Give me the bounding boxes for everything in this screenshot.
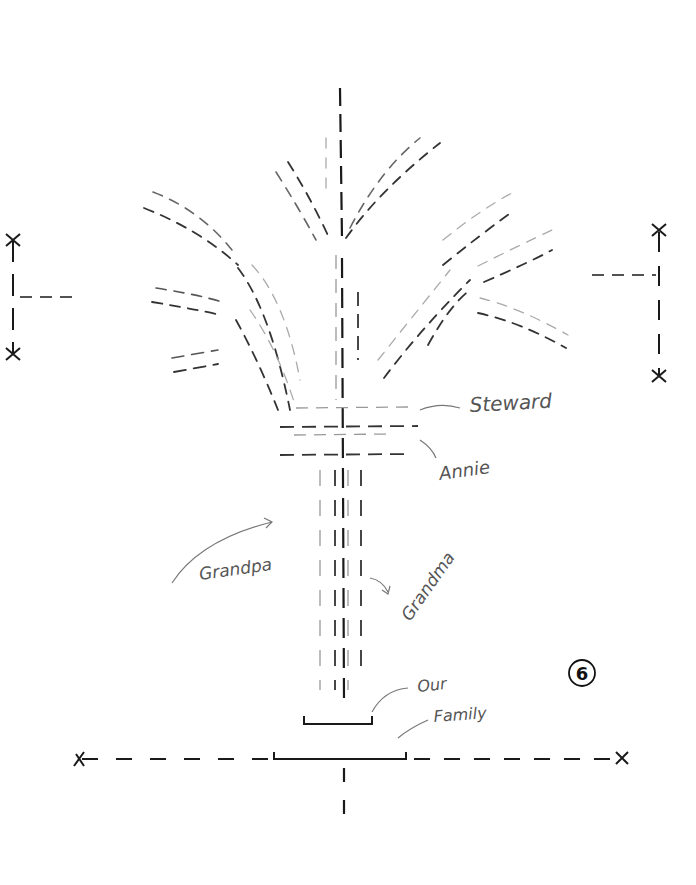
label-grandma: Grandma (397, 548, 459, 624)
family-tree-diagram: Steward Annie Grandpa Grandma Our Family… (0, 0, 696, 885)
svg-text:6: 6 (576, 663, 589, 684)
label-grandpa: Grandpa (198, 554, 273, 584)
central-axis (340, 88, 344, 820)
bottom-axis (74, 752, 628, 766)
label-our: Our (416, 674, 449, 696)
right-branches (378, 193, 568, 378)
label-annie: Annie (437, 456, 492, 484)
trunk (320, 470, 361, 690)
our-bracket (304, 716, 372, 724)
page-number-badge: 6 (569, 660, 595, 686)
left-branches (144, 192, 300, 410)
right-side-axis (592, 224, 666, 382)
left-inner-branches (336, 255, 358, 400)
top-branches (276, 138, 440, 240)
label-family: Family (433, 703, 488, 726)
generation-lines (280, 407, 418, 455)
label-steward: Steward (469, 389, 553, 417)
left-side-axis (6, 234, 74, 360)
